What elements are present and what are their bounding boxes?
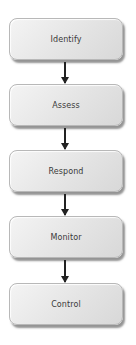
arrowhead-icon	[61, 143, 69, 150]
arrow-down-icon	[64, 128, 66, 149]
step-control: Control	[9, 283, 123, 325]
arrowhead-icon	[61, 209, 69, 216]
arrow-down-icon	[64, 260, 66, 282]
arrow-down-icon	[64, 194, 66, 215]
step-monitor: Monitor	[9, 216, 123, 258]
step-label: Monitor	[50, 233, 81, 242]
step-label: Assess	[52, 101, 80, 110]
arrowhead-icon	[61, 77, 69, 84]
arrow-down-icon	[64, 62, 66, 83]
step-assess: Assess	[9, 84, 123, 126]
step-label: Respond	[48, 167, 83, 176]
step-label: Identify	[51, 35, 82, 44]
arrowhead-icon	[61, 276, 69, 283]
step-identify: Identify	[9, 18, 123, 60]
step-label: Control	[51, 300, 81, 309]
step-respond: Respond	[9, 150, 123, 192]
